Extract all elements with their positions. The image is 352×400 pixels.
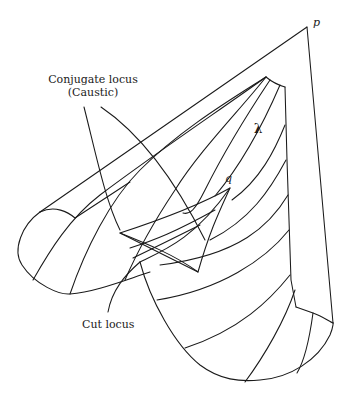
left-tube-inner-lip (40, 182, 130, 218)
geodesic (70, 77, 266, 294)
label-cut-locus: Cut locus (82, 318, 134, 331)
geodesic (245, 290, 295, 382)
label-conjugate-locus-line2: (Caustic) (48, 86, 138, 99)
right-tube-rim (140, 262, 333, 381)
label-point-q: q (225, 172, 232, 185)
geodesic (125, 77, 266, 280)
label-conjugate-locus-line1: Conjugate locus (48, 73, 138, 86)
right-tube-inner-fold (296, 307, 333, 323)
label-conjugate-locus: Conjugate locus (Caustic) (48, 73, 138, 99)
leader-cut-locus (108, 262, 140, 312)
left-tube-rim (18, 212, 150, 294)
label-geodesic-lambda: λ (254, 123, 262, 136)
leader-conjugate-locus-2 (101, 107, 205, 240)
diagram-canvas (0, 0, 352, 400)
surface-right-edge (307, 27, 333, 323)
label-point-p: p (313, 16, 320, 29)
geodesic (157, 230, 289, 300)
geodesic (160, 195, 288, 265)
